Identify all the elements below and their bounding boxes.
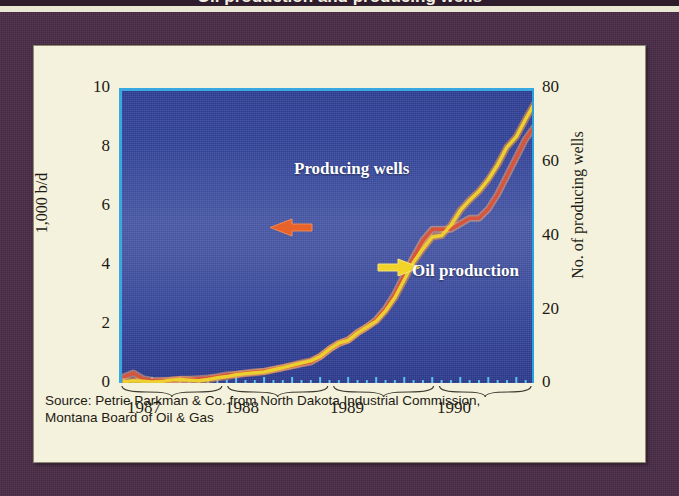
right-tick-40: 40	[542, 225, 580, 245]
plot-svg	[122, 91, 534, 383]
left-tick-2: 2	[72, 313, 110, 333]
annotation-oil-production: Oil production	[412, 261, 519, 281]
left-axis-title: 1,000 b/d	[33, 173, 51, 233]
left-tick-0: 0	[72, 372, 110, 392]
left-tick-4: 4	[72, 254, 110, 274]
series-layer	[124, 103, 534, 382]
plot-area: Producing wells Oil production	[119, 88, 534, 383]
headline-divider	[0, 6, 679, 12]
source-caption-line2: Montana Board of Oil & Gas	[45, 409, 625, 426]
chart-card: 1,000 b/d 10 8 6 4 2 0 No. of producing …	[33, 45, 646, 463]
right-tick-60: 60	[542, 151, 580, 171]
source-caption-line1: Source: Petrie Parkman & Co. from North …	[45, 392, 625, 409]
left-tick-8: 8	[72, 136, 110, 156]
right-tick-20: 20	[542, 299, 580, 319]
left-tick-10: 10	[72, 77, 110, 97]
annotation-producing-wells: Producing wells	[294, 159, 409, 179]
series-glow-oil-production	[124, 103, 534, 382]
source-caption: Source: Petrie Parkman & Co. from North …	[45, 392, 625, 426]
left-arrow-icon	[270, 219, 312, 236]
left-tick-6: 6	[72, 195, 110, 215]
figure-root: Oil production and producing wells 1,000…	[0, 0, 679, 496]
series-line-oil-production	[124, 103, 534, 382]
right-tick-0: 0	[542, 372, 580, 392]
right-tick-80: 80	[542, 77, 580, 97]
